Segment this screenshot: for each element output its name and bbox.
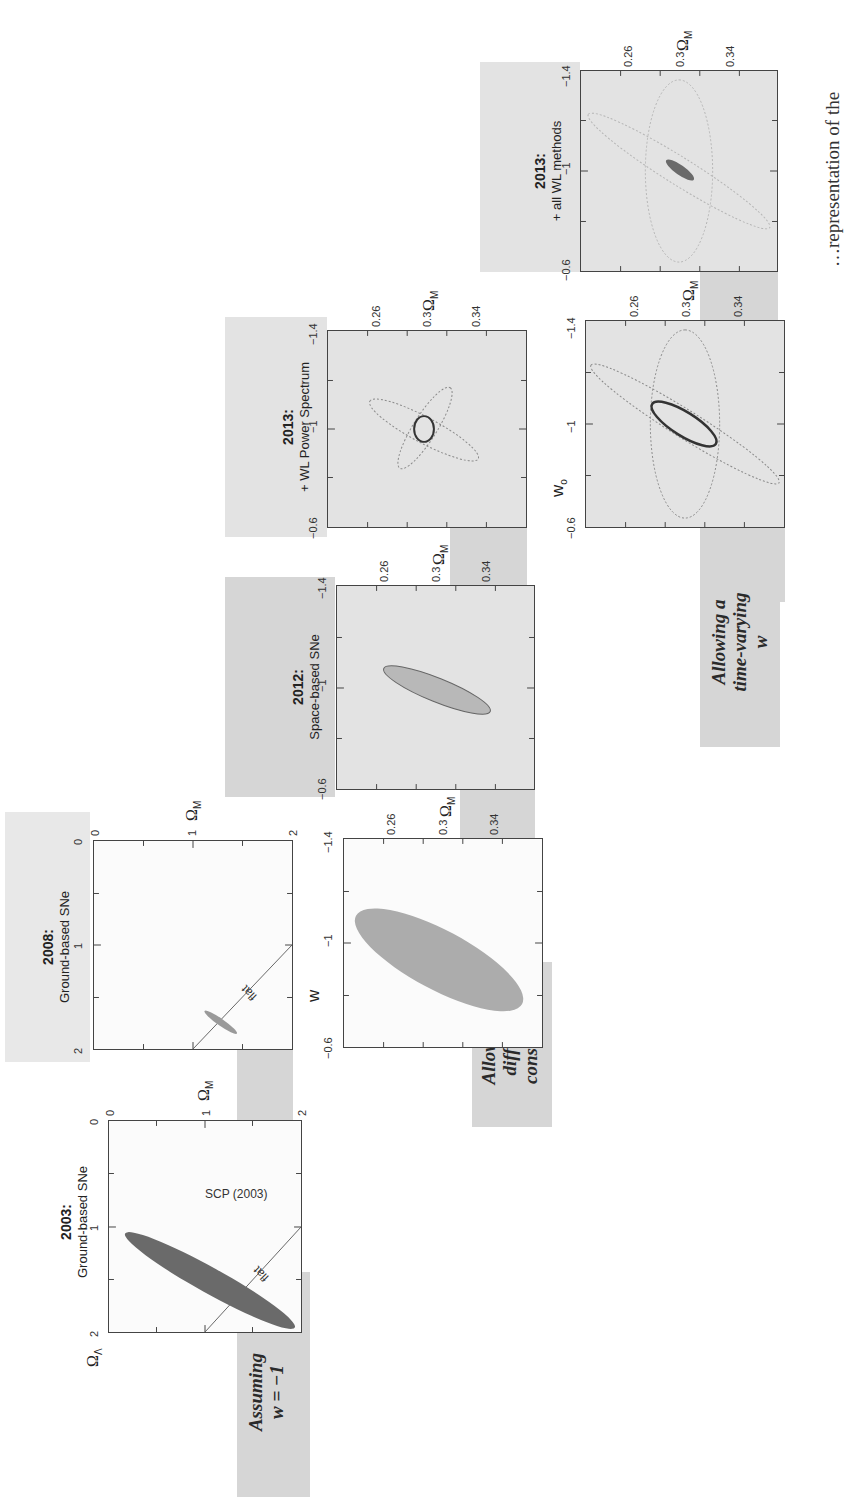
tick-2003-x1: 1	[200, 1110, 212, 1116]
tick-2003-y2: 2	[88, 1331, 100, 1337]
tick-constw-x0: 0.26	[385, 814, 397, 835]
tick-2013c-y1: −1	[560, 162, 572, 175]
tick-2012-y1: −1	[316, 679, 328, 692]
tick-constw-y1: −1	[322, 934, 334, 947]
plot-2013c-canvas	[581, 71, 777, 271]
tick-2012-x1: 0.3	[430, 567, 442, 582]
tick-2013c-y2: −1.4	[560, 65, 572, 87]
plot-2012-canvas	[337, 586, 534, 789]
tick-2013a-y1: −1	[307, 420, 319, 433]
tick-2003-y1: 1	[88, 1225, 100, 1231]
tick-2013a-y2: −1.4	[307, 323, 319, 345]
tick-constw-x2: 0.34	[488, 814, 500, 835]
tick-2008-x2: 2	[287, 830, 299, 836]
scp-2003-contour	[119, 1222, 301, 1339]
constant-w-contour	[342, 889, 536, 1030]
tick-2008-x1: 1	[186, 830, 198, 836]
tick-2008-y1: 1	[72, 943, 84, 949]
wl-power-contour	[390, 381, 461, 474]
xlabel-2013b: ΩM	[680, 281, 700, 301]
tick-2013b-y0: −0.6	[565, 517, 577, 539]
ylabel-2003: ΩΛ	[84, 1348, 104, 1367]
tick-2012-x2: 0.34	[480, 561, 492, 582]
tick-constw-y2: −1.4	[322, 831, 334, 853]
annotation-scp-2003: SCP (2003)	[205, 1187, 267, 1201]
tick-2013a-x2: 0.34	[470, 306, 482, 327]
tick-2012-x0: 0.26	[378, 561, 390, 582]
tick-2013a-y0: −0.6	[307, 517, 319, 539]
shade-band-2003-right	[237, 1050, 293, 1120]
ylabel-constant-w: w	[304, 990, 324, 1002]
tick-2003-x2: 2	[296, 1110, 308, 1116]
tick-2008-x0: 0	[89, 830, 101, 836]
tick-2003-y0: 0	[88, 1119, 100, 1125]
tick-constw-x1: 0.3	[437, 820, 449, 835]
tick-2003-x0: 0	[104, 1110, 116, 1116]
tick-2013c-x1: 0.3	[674, 52, 686, 67]
tick-2008-y0: 0	[72, 839, 84, 845]
xlabel-2013c: ΩM	[674, 31, 694, 51]
tick-2013b-x2: 0.34	[732, 296, 744, 317]
tick-2008-y2: 2	[72, 1048, 84, 1054]
tick-2013b-x0: 0.26	[628, 296, 640, 317]
plot-constant-w	[343, 838, 543, 1048]
tick-2013a-x1: 0.3	[421, 312, 433, 327]
panel-2008-title: 2008: Ground-based SNe	[40, 847, 73, 1047]
xlabel-constant-w: ΩM	[437, 797, 457, 817]
tilted-contour	[584, 353, 787, 494]
caption-fragment: …representation of the	[822, 92, 844, 267]
tick-constw-y0: −0.6	[322, 1037, 334, 1059]
xlabel-2012: ΩM	[430, 545, 450, 565]
plot-2008-canvas	[94, 841, 292, 1049]
combined-contour	[414, 416, 434, 442]
tick-2013c-x0: 0.26	[622, 46, 634, 67]
tick-2012-y2: −1.4	[316, 577, 328, 599]
tick-2012-y0: −0.6	[316, 778, 328, 800]
2008-contour	[203, 1008, 239, 1036]
xlabel-2013a: ΩM	[420, 291, 440, 311]
plot-2003-canvas	[109, 1121, 301, 1332]
xlabel-2003: ΩM	[195, 1081, 215, 1101]
ylabel-2013b: wo	[548, 479, 569, 497]
wide-contour	[650, 330, 719, 518]
tick-2013b-y1: −1	[565, 420, 577, 433]
plot-constant-w-canvas	[344, 839, 542, 1047]
plot-2003: SCP (2003) flat	[108, 1120, 302, 1333]
plot-2013a-canvas	[328, 331, 526, 527]
2012-contour	[379, 657, 494, 722]
tick-2013a-x0: 0.26	[370, 306, 382, 327]
plot-2013-all-wl	[580, 70, 778, 272]
plot-2012	[336, 585, 535, 790]
tick-2013c-y0: −0.6	[560, 259, 572, 281]
figure-canvas: Assuming w = −1 Allowing a different con…	[0, 0, 854, 1497]
plot-2013b-canvas	[586, 321, 784, 527]
panel-2003-title: 2003: Ground-based SNe	[58, 1122, 91, 1322]
all-wl-combined-contour	[663, 156, 696, 183]
row-label-time-varying: Allowing a time-varying w	[708, 547, 771, 737]
plot-2013-wl-power	[327, 330, 527, 528]
sne-contour	[364, 390, 484, 470]
tick-2013c-x2: 0.34	[724, 46, 736, 67]
xlabel-2008: ΩM	[183, 801, 203, 821]
plot-2008: flat	[93, 840, 293, 1050]
tick-2013b-x1: 0.3	[680, 302, 692, 317]
plot-2013-time-varying	[585, 320, 785, 528]
tick-2013b-y2: −1.4	[565, 317, 577, 339]
